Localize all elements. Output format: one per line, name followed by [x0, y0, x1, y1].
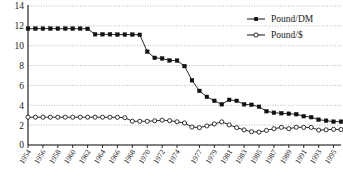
data-point	[63, 115, 67, 119]
data-point	[34, 27, 38, 31]
data-point	[294, 125, 298, 129]
data-point	[227, 98, 231, 102]
data-point	[242, 128, 246, 132]
data-point	[78, 27, 82, 31]
data-point	[41, 115, 45, 119]
legend-label: Pound/DM	[271, 14, 314, 24]
data-point	[190, 78, 194, 82]
data-point	[130, 33, 134, 37]
data-point	[123, 116, 127, 120]
data-point	[317, 118, 321, 122]
data-point	[331, 127, 335, 131]
x-tick-label: 1970	[136, 148, 152, 166]
data-point	[332, 120, 336, 124]
y-tick-label: 12	[15, 21, 25, 31]
exchange-rate-chart: 0246810121419541956195819601962196419661…	[0, 0, 343, 183]
legend-label: Pound/$	[271, 30, 303, 40]
data-point	[205, 95, 209, 99]
data-point	[123, 33, 127, 37]
x-tick-label: 1995	[323, 148, 339, 166]
data-point	[227, 123, 231, 127]
x-tick-label: 1958	[47, 148, 63, 166]
data-point	[175, 59, 179, 63]
x-tick-label: 1968	[122, 148, 138, 166]
data-point	[71, 27, 75, 31]
data-point	[280, 111, 284, 115]
data-point	[100, 115, 104, 119]
data-point	[309, 125, 313, 129]
data-point	[153, 119, 157, 123]
x-tick-label: 1993	[308, 148, 324, 166]
x-tick-label: 1960	[62, 148, 78, 166]
data-point	[108, 115, 112, 119]
x-tick-label: 1985	[248, 148, 264, 166]
data-point	[272, 111, 276, 115]
data-point	[33, 115, 37, 119]
data-point	[287, 127, 291, 131]
data-point	[183, 64, 187, 68]
x-tick-label: 1966	[107, 148, 123, 166]
data-point	[145, 50, 149, 54]
data-point	[257, 130, 261, 134]
y-tick-label: 8	[19, 61, 24, 71]
legend-marker-open-circle-icon	[254, 33, 258, 37]
data-point	[160, 57, 164, 61]
data-point	[294, 112, 298, 116]
x-tick-label: 1956	[32, 148, 48, 166]
data-point	[49, 27, 53, 31]
data-point	[93, 115, 97, 119]
data-point	[93, 32, 97, 36]
data-point	[26, 115, 30, 119]
data-point	[168, 59, 172, 63]
data-point	[71, 115, 75, 119]
data-point	[56, 115, 60, 119]
y-tick-labels: 02468101214	[15, 1, 25, 150]
y-tick-label: 4	[19, 101, 24, 111]
data-point	[145, 119, 149, 123]
data-point	[115, 115, 119, 119]
data-point	[63, 27, 67, 31]
data-point	[257, 105, 261, 109]
x-tick-label: 1972	[151, 148, 167, 166]
data-point	[138, 33, 142, 37]
data-point	[212, 122, 216, 126]
data-point	[220, 102, 224, 106]
data-point	[101, 32, 105, 36]
data-point	[250, 103, 254, 107]
x-tick-label: 1979	[204, 148, 220, 166]
data-point	[302, 125, 306, 129]
data-point	[78, 115, 82, 119]
data-point	[86, 115, 90, 119]
data-point	[138, 119, 142, 123]
legend-marker-filled-square-icon	[254, 17, 258, 21]
data-point	[264, 128, 268, 132]
data-point	[130, 119, 134, 123]
x-tick-label: 1974	[166, 148, 182, 166]
data-point	[198, 89, 202, 93]
data-point	[339, 120, 343, 124]
x-tick-label: 1987	[263, 148, 279, 166]
legend: Pound/DMPound/$	[247, 14, 314, 40]
data-point	[235, 126, 239, 130]
data-point	[309, 115, 313, 119]
y-tick-label: 2	[19, 121, 24, 131]
data-point	[160, 118, 164, 122]
data-point	[175, 120, 179, 124]
data-point	[250, 130, 254, 134]
x-tick-label: 1991	[293, 148, 309, 166]
data-point	[116, 33, 120, 37]
x-tick-labels: 1954195619581960196219641966196819701972…	[17, 145, 338, 165]
series-1	[26, 27, 343, 124]
data-point	[41, 27, 45, 31]
data-point	[287, 112, 291, 116]
y-tick-label: 14	[15, 1, 25, 11]
data-point	[324, 128, 328, 132]
data-point	[302, 114, 306, 118]
data-point	[26, 27, 30, 31]
chart-canvas: 0246810121419541956195819601962196419661…	[0, 0, 343, 183]
data-point	[220, 120, 224, 124]
data-point	[242, 102, 246, 106]
data-point	[212, 99, 216, 103]
data-point	[339, 127, 343, 131]
data-point	[168, 119, 172, 123]
